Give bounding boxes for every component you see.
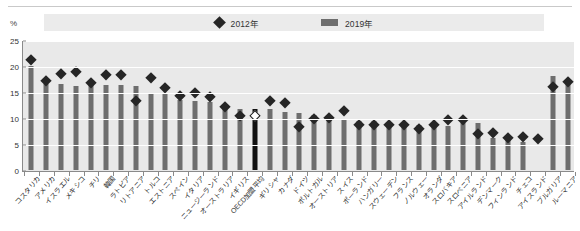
y-tick-label: 0 (3, 167, 19, 176)
chart-category-group (367, 41, 382, 170)
chart-container: 2012年 2019年 % 0510152025 コスタリカアメリカイスラエルメ… (0, 0, 580, 231)
chart-category-group (113, 41, 128, 170)
marker-2012 (130, 95, 141, 106)
marker-2012 (562, 76, 573, 87)
chart-category-group (307, 41, 322, 170)
chart-category-group (232, 41, 247, 170)
marker-2012 (294, 121, 305, 132)
marker-2012 (279, 98, 290, 109)
legend-label-2012: 2012年 (231, 17, 259, 29)
plot-area (22, 41, 574, 172)
y-axis: 0510152025 (0, 41, 19, 172)
chart-category-group (69, 41, 84, 170)
bar-2019 (118, 85, 123, 170)
y-tick-mark (23, 119, 26, 120)
chart-category-group (381, 41, 396, 170)
chart-legend: 2012年 2019年 (44, 14, 544, 31)
chart-category-group (560, 41, 575, 170)
bar-2019 (178, 100, 183, 170)
chart-category-group (84, 41, 99, 170)
marker-2012 (56, 69, 67, 80)
bar-2019 (491, 138, 496, 170)
chart-category-group (218, 41, 233, 170)
chart-category-group (396, 41, 411, 170)
marker-2012 (309, 113, 320, 124)
gridline (23, 93, 574, 94)
gridline (23, 67, 574, 68)
chart-category-group (24, 41, 39, 170)
chart-category-group (39, 41, 54, 170)
top-divider (8, 6, 572, 7)
chart-category-group (54, 41, 69, 170)
chart-category-group (203, 41, 218, 170)
bar-2019 (148, 93, 153, 170)
marker-2012 (339, 105, 350, 116)
marker-2012 (160, 82, 171, 93)
marker-2012 (101, 69, 112, 80)
chart-category-group (98, 41, 113, 170)
y-tick-label: 20 (3, 63, 19, 72)
marker-2012 (428, 119, 439, 130)
chart-category-group (188, 41, 203, 170)
marker-2012 (503, 132, 514, 143)
legend-entry-2019: 2019年 (321, 17, 373, 29)
chart-category-group (128, 41, 143, 170)
chart-category-group (292, 41, 307, 170)
chart-category-group (262, 41, 277, 170)
chart-category-group (277, 41, 292, 170)
bar-2019 (193, 101, 198, 170)
y-tick-mark (23, 67, 26, 68)
marker-2012 (384, 119, 395, 130)
bar-2019 (431, 126, 436, 170)
diamond-icon (213, 16, 226, 29)
marker-2012 (488, 127, 499, 138)
x-tick-label: チリ (86, 174, 103, 191)
chart-category-group (247, 41, 262, 170)
marker-2012 (220, 101, 231, 112)
plot-wrapper (22, 41, 574, 172)
gridline (23, 145, 574, 146)
marker-2012 (369, 119, 380, 130)
marker-2012 (86, 77, 97, 88)
y-tick-label: 25 (3, 37, 19, 46)
y-tick-mark (23, 93, 26, 94)
marker-2012 (518, 131, 529, 142)
legend-label-2019: 2019年 (345, 17, 373, 29)
marker-2012 (264, 96, 275, 107)
y-tick-label: 15 (3, 89, 19, 98)
bar-swatch-icon (321, 19, 338, 26)
chart-category-group (456, 41, 471, 170)
y-tick-label: 10 (3, 115, 19, 124)
chart-category-group (337, 41, 352, 170)
marker-2012 (190, 87, 201, 98)
marker-2012 (324, 112, 335, 123)
chart-category-group (411, 41, 426, 170)
chart-category-group (471, 41, 486, 170)
bar-2019 (44, 84, 49, 170)
chart-category-group (486, 41, 501, 170)
chart-category-group (173, 41, 188, 170)
x-axis-labels: コスタリカアメリカイスラエルメキシコチリ韓国ラトビアリトアニアトルコエストニアス… (23, 174, 574, 231)
y-tick-label: 5 (3, 141, 19, 150)
gridline (23, 41, 574, 42)
marker-2012 (115, 69, 126, 80)
marker-2012 (532, 134, 543, 145)
bar-2019 (446, 126, 451, 170)
chart-category-group (441, 41, 456, 170)
chart-category-group (515, 41, 530, 170)
chart-category-group (530, 41, 545, 170)
y-axis-unit-label: % (10, 19, 17, 28)
bar-2019 (208, 102, 213, 170)
bar-2019 (74, 86, 79, 170)
chart-category-group (143, 41, 158, 170)
x-label-slot: チリ (86, 174, 103, 191)
bar-2019 (59, 84, 64, 170)
marker-2012 (413, 123, 424, 134)
chart-category-group (545, 41, 560, 170)
marker-2012 (145, 72, 156, 83)
bar-2019 (520, 142, 525, 170)
bar-2019 (29, 66, 34, 170)
bar-2019 (461, 123, 466, 170)
y-tick-mark (23, 41, 26, 42)
chart-category-group (322, 41, 337, 170)
